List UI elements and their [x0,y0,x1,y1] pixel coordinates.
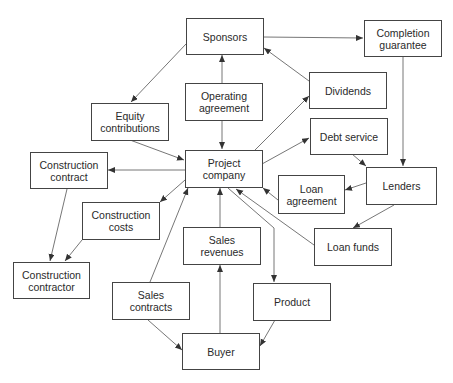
edge-sponsors-completion-guarantee [263,37,363,38]
node-sales-revenues: Sales revenues [183,227,261,265]
node-label: Sponsors [203,31,247,43]
node-label: Construction contract [40,159,99,183]
node-label: Equity contributions [100,110,160,134]
edge-loan-agreement-project-company [263,188,278,200]
node-debt-service: Debt service [310,118,388,155]
node-label: Operating agreement [199,90,249,114]
node-label: Completion guarantee [376,27,429,51]
node-label: Sales contracts [130,289,173,313]
edge-project-company-dividends [255,96,309,150]
node-product: Product [253,283,331,321]
node-sponsors: Sponsors [186,18,264,55]
node-dividends: Dividends [309,72,387,109]
node-label: Buyer [207,346,234,358]
edge-construction-costs-construction-contractor [65,240,82,261]
node-construction-contract: Construction contract [30,152,108,189]
edge-equity-contributions-project-company [130,140,184,160]
node-label: Lenders [383,180,421,192]
node-label: Product [274,296,310,308]
node-label: Debt service [320,131,378,143]
node-completion-guarantee: Completion guarantee [364,20,442,57]
edge-lenders-loan-agreement [345,183,366,190]
node-label: Sales revenues [200,234,243,258]
node-project-company: Project company [185,150,263,188]
node-label: Construction costs [92,209,151,233]
node-sales-contracts: Sales contracts [112,282,190,320]
edge-project-company-construction-costs [160,180,185,202]
node-label: Project company [203,157,246,181]
node-construction-contractor: Construction contractor [13,262,90,299]
edge-debt-service-lenders [352,154,366,166]
edge-dividends-sponsors [264,48,309,81]
edge-product-buyer [260,320,275,346]
node-equity-contributions: Equity contributions [91,103,169,141]
node-loan-agreement: Loan agreement [278,175,345,214]
project-finance-diagram: Sponsors Completion guarantee Operating … [0,0,453,383]
edge-lenders-loan-funds [353,205,394,228]
node-lenders: Lenders [366,167,437,205]
edge-sponsors-equity-contributions [131,44,186,102]
edge-construction-contract-construction-contractor [50,189,67,261]
node-label: Construction contractor [22,269,81,293]
node-label: Loan agreement [286,183,336,207]
edge-sales-contracts-buyer [148,320,182,350]
node-operating-agreement: Operating agreement [185,83,263,121]
node-label: Dividends [325,85,371,97]
node-buyer: Buyer [182,333,260,370]
node-label: Loan funds [327,241,379,253]
edge-project-company-debt-service [262,138,309,164]
node-loan-funds: Loan funds [314,228,392,266]
node-construction-costs: Construction costs [82,202,160,240]
